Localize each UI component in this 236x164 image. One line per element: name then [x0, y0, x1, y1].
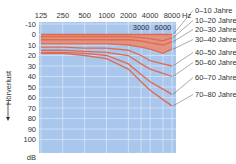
arrow-down-icon: [6, 117, 10, 121]
y-tick-label: 30: [28, 62, 36, 71]
x-tick-label: 125: [35, 11, 48, 20]
y-axis-unit: dB: [27, 153, 36, 162]
legend-label: 20–30 Jahre: [195, 25, 236, 34]
y-tick-label: 40: [28, 72, 36, 81]
y-tick-label: 80: [28, 114, 36, 123]
hearing-loss-chart: 1252505001000200040008000Hz30006000-1001…: [0, 0, 236, 164]
y-tick-label: 70: [28, 104, 36, 113]
y-axis-label: Hörverlust: [4, 70, 13, 105]
y-tick-label: 0: [32, 30, 36, 39]
x-tick-label: 4000: [142, 11, 159, 20]
y-tick-label: 20: [28, 51, 36, 60]
legend-label: 40–50 Jahre: [195, 48, 236, 57]
y-tick-label: 100: [23, 135, 36, 144]
y-tick-label: 60: [28, 93, 36, 102]
x-tick-label: 2000: [120, 11, 137, 20]
legend-label: 50–60 Jahre: [195, 58, 236, 67]
legend-label: 0–10 Jahre: [195, 6, 233, 15]
legend-label: 30–40 Jahre: [195, 35, 236, 44]
x-inner-tick-label: 3000: [133, 23, 150, 32]
legend-label: 10–20 Jahre: [195, 16, 236, 25]
y-tick-label: 10: [28, 41, 36, 50]
y-tick-label: 50: [28, 83, 36, 92]
y-tick-label: -10: [25, 20, 36, 29]
x-tick-label: 1000: [98, 11, 115, 20]
x-tick-label: 500: [78, 11, 91, 20]
x-inner-tick-label: 6000: [155, 23, 172, 32]
legend-label: 60–70 Jahre: [195, 73, 236, 82]
x-tick-label: 250: [57, 11, 70, 20]
y-tick-label: 90: [28, 125, 36, 134]
x-tick-label: 8000: [164, 11, 181, 20]
legend-label: 70–80 Jahre: [195, 90, 236, 99]
x-axis-unit: Hz: [182, 11, 191, 20]
